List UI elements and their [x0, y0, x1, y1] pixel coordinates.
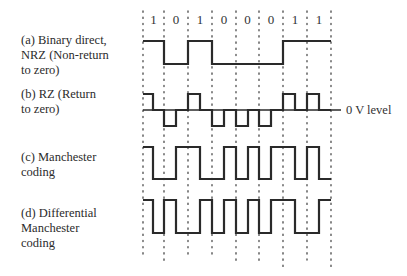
bit-label: 1 [292, 12, 299, 27]
bit-label: 0 [244, 12, 251, 27]
zero-volt-label: 0 V level [346, 103, 392, 117]
waveform-nrz [143, 41, 331, 64]
waveform-manchester [143, 147, 331, 179]
bit-label: 0 [268, 12, 275, 27]
waveform-differential-manchester [143, 200, 331, 233]
bit-label: 0 [221, 12, 228, 27]
line-coding-diagram: 1 0 1 0 0 0 1 1 0 V level [0, 0, 407, 276]
bit-label: 1 [197, 12, 204, 27]
bit-label: 1 [316, 12, 323, 27]
bit-label: 1 [150, 12, 157, 27]
bit-label: 0 [173, 12, 180, 27]
